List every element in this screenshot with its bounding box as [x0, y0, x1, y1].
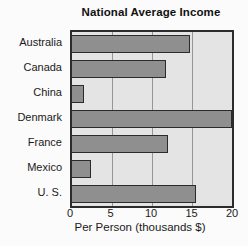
x-tick-10: 10: [145, 207, 157, 219]
bar-mexico: [72, 160, 91, 178]
x-axis-tick-labels: 0 5 10 15 20: [70, 207, 232, 220]
x-tick-5: 5: [107, 207, 113, 219]
bar-australia: [72, 35, 190, 53]
bar-row: [72, 156, 232, 181]
bar-china: [72, 85, 84, 103]
x-tick-0: 0: [67, 207, 73, 219]
category-label-canada: Canada: [0, 55, 66, 80]
bar-row: [72, 107, 232, 132]
bar-row: [72, 32, 232, 57]
category-label-us: U. S.: [0, 179, 66, 204]
plot-area: [70, 30, 234, 208]
x-tick-15: 15: [185, 207, 197, 219]
x-tick-20: 20: [226, 207, 238, 219]
bar-row: [72, 181, 232, 206]
category-label-australia: Australia: [0, 30, 66, 55]
y-axis-category-labels: Australia Canada China Denmark France Me…: [0, 30, 66, 204]
bar-row: [72, 57, 232, 82]
bar-row: [72, 82, 232, 107]
bar-france: [72, 135, 168, 153]
category-label-china: China: [0, 80, 66, 105]
category-label-denmark: Denmark: [0, 105, 66, 130]
bar-chart-figure: National Average Income Australia Canada…: [0, 0, 248, 246]
category-label-france: France: [0, 129, 66, 154]
bar-us: [72, 185, 196, 203]
category-label-mexico: Mexico: [0, 154, 66, 179]
bar-row: [72, 131, 232, 156]
chart-title: National Average Income: [64, 6, 238, 18]
bar-denmark: [72, 110, 232, 128]
x-axis-title: Per Person (thousands $): [40, 221, 240, 233]
bar-series: [72, 32, 232, 206]
bar-canada: [72, 60, 166, 78]
